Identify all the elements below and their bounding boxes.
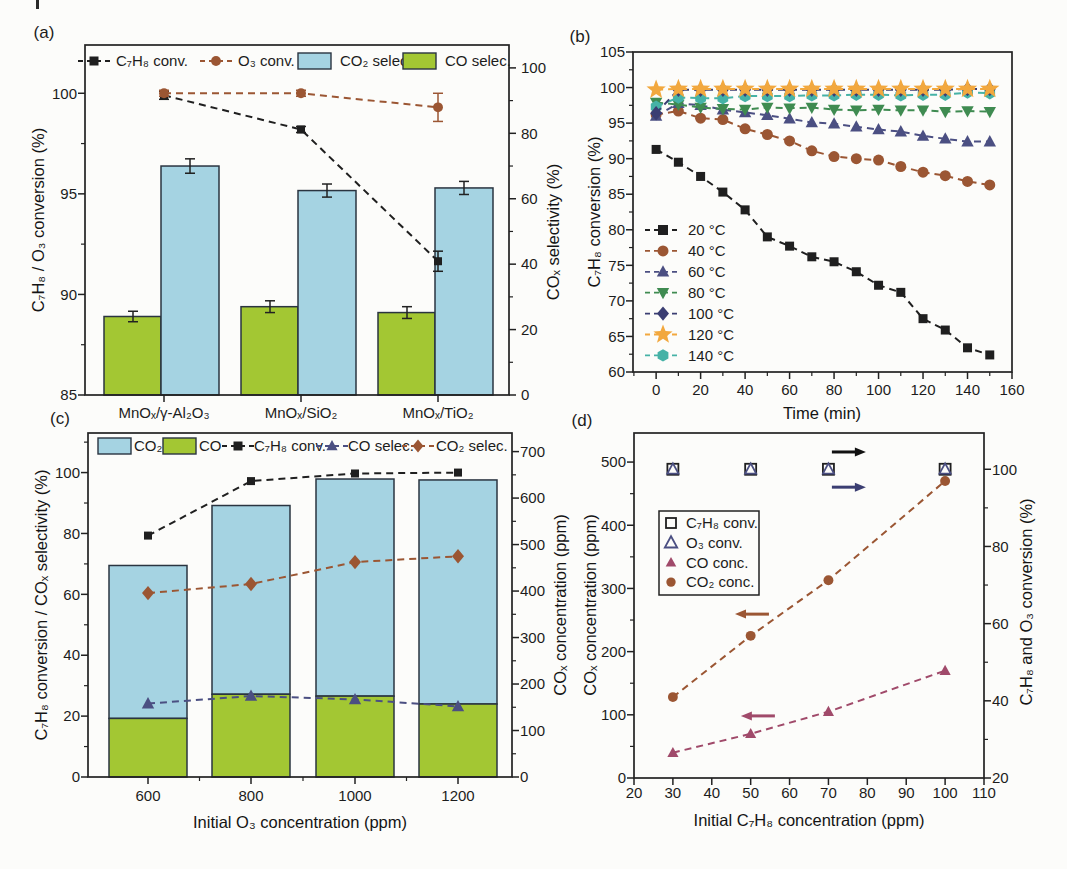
panel-c-y-left-label: C₇H₈ conversion / COₓ selectivity (%): [32, 470, 51, 741]
bar-co: [241, 307, 298, 395]
series-marker: [806, 145, 817, 156]
bar-co2: [298, 191, 356, 395]
series-line: [148, 473, 458, 536]
category-label: MnOₓ/SiO₂: [265, 404, 338, 421]
series-marker: [984, 179, 995, 190]
tick-label: 80: [859, 784, 876, 801]
plot-frame: [634, 433, 984, 778]
series-marker: [763, 232, 772, 241]
tick-label: 0: [72, 768, 80, 785]
bar-co: [104, 316, 161, 395]
legend-marker: [211, 56, 221, 66]
legend-swatch: [98, 438, 131, 454]
panel-c-plot: 0204060801000100200300400500600700600800…: [55, 433, 545, 804]
tick-label: 600: [520, 489, 545, 506]
tick-label: 20: [692, 381, 709, 398]
tick-label: 600: [135, 787, 160, 804]
series-marker: [850, 120, 862, 131]
tick-label: 200: [520, 675, 545, 692]
tick-label: 60: [521, 190, 538, 207]
bar-co: [378, 313, 435, 395]
series-marker: [984, 135, 996, 146]
bar-co: [109, 718, 187, 777]
tick-label: 400: [520, 582, 545, 599]
axis-indicator-arrowhead: [735, 610, 746, 619]
series-marker: [652, 145, 661, 154]
tick-label: 0: [652, 381, 660, 398]
legend-label: CO: [199, 437, 222, 454]
panel-b-legend: 20 °C40 °C60 °C80 °C100 °C120 °C140 °C: [645, 221, 734, 363]
tick-label: 140: [955, 381, 980, 398]
series-marker: [647, 80, 666, 98]
tick-label: 500: [520, 536, 545, 553]
legend-label: 80 °C: [688, 284, 726, 301]
tick-label: 300: [520, 629, 545, 646]
tick-label: 100: [55, 464, 80, 481]
legend-label: C₇H₈ conv.: [686, 514, 758, 531]
tick-label: 40: [737, 381, 754, 398]
series-marker: [668, 692, 678, 702]
tick-label: 100: [992, 461, 1017, 478]
panel-a-legend: C₇H₈ conv.O₃ conv.CO₂ selec.CO selec.: [78, 52, 511, 69]
legend-marker: [665, 536, 677, 547]
panel-a-label: (a): [34, 23, 55, 43]
legend-label: 100 °C: [688, 305, 734, 322]
tick-label: 20: [63, 707, 80, 724]
panel-c-bars: [109, 479, 497, 777]
series-marker: [785, 242, 794, 251]
legend-marker: [653, 324, 672, 342]
series-marker: [919, 314, 928, 323]
tick-label: 40: [63, 646, 80, 663]
series-marker: [433, 102, 443, 112]
legend-label: CO selec.: [445, 52, 511, 69]
panel-b-x-label: Time (min): [783, 404, 861, 423]
legend-label: 20 °C: [688, 221, 726, 238]
series-marker: [297, 125, 305, 133]
tick-label: 800: [238, 787, 263, 804]
legend-label: CO conc.: [686, 554, 749, 571]
series-marker: [434, 257, 442, 265]
category-label: MnOₓ/γ-Al₂O₃: [118, 404, 209, 421]
panel-d-plot: 0100200300400500204060801002030405060708…: [601, 433, 1017, 801]
legend-marker: [413, 440, 424, 453]
tick-label: 75: [608, 257, 625, 274]
series-marker: [696, 172, 705, 181]
tick-label: 100: [601, 706, 626, 723]
series-marker: [895, 161, 906, 172]
tick-label: 30: [665, 784, 682, 801]
tick-label: 160: [999, 381, 1024, 398]
tick-label: 95: [60, 185, 77, 202]
legend-marker: [666, 577, 675, 586]
legend-swatch: [163, 438, 196, 454]
panel-c-legend: CO₂COC₇H₈ conv.CO selec.CO₂ selec.: [98, 437, 508, 454]
panel-d-y-right-label: C₇H₈ and O₃ conversion (%): [1017, 498, 1036, 705]
legend-label: 60 °C: [688, 263, 726, 280]
series-marker: [144, 532, 152, 540]
legend-label: 120 °C: [688, 326, 734, 343]
tick-label: 85: [608, 185, 625, 202]
bar-co: [316, 696, 394, 777]
bar-co2: [316, 479, 394, 696]
series-marker: [917, 106, 929, 117]
series-marker: [762, 129, 773, 140]
series-marker: [761, 103, 773, 114]
legend-marker: [658, 245, 669, 256]
tick-label: 105: [600, 43, 625, 60]
tick-label: 0: [521, 386, 529, 403]
tick-label: 60: [608, 363, 625, 380]
series-marker: [667, 463, 678, 473]
legend-label: C₇H₈ conv.: [116, 52, 188, 69]
tick-label: 60: [781, 381, 798, 398]
tick-label: 80: [521, 125, 538, 142]
series-marker: [247, 477, 255, 485]
tick-label: 100: [600, 79, 625, 96]
series-marker: [940, 665, 951, 675]
legend-label: 140 °C: [688, 347, 734, 364]
tick-label: 120: [911, 381, 936, 398]
bar-co: [212, 694, 290, 777]
legend-marker: [658, 349, 669, 361]
legend-marker: [657, 306, 669, 320]
tick-label: 100: [933, 784, 958, 801]
tick-label: 60: [781, 784, 798, 801]
series-marker: [741, 205, 750, 214]
